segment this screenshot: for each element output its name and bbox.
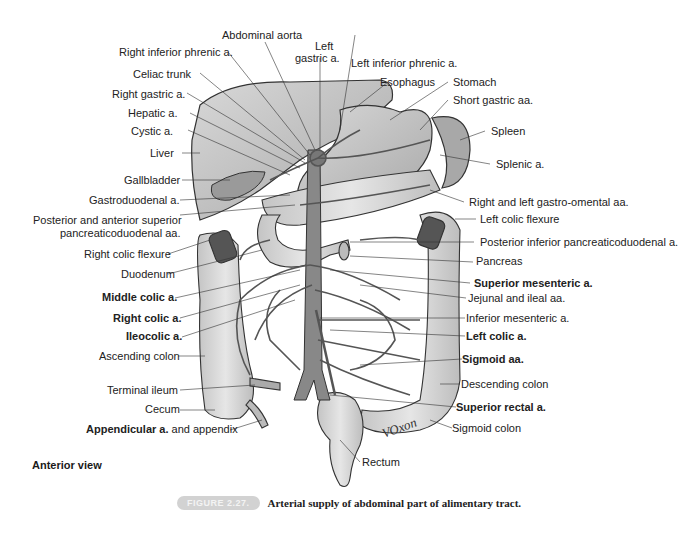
spleen (432, 117, 470, 188)
label-sigmoid-colon: Sigmoid colon (452, 422, 521, 435)
label-ascending-colon: Ascending colon (99, 350, 180, 363)
label-superior-mesenteric: Superior mesenteric a. (474, 277, 593, 290)
label-right-colic: Right colic a. (113, 312, 181, 325)
label-splenic: Splenic a. (496, 158, 544, 171)
label-superior-rectal: Superior rectal a. (456, 401, 546, 414)
label-duodenum: Duodenum (121, 268, 175, 281)
label-rectum: Rectum (362, 456, 400, 469)
label-celiac-trunk: Celiac trunk (133, 68, 191, 81)
label-post-ant-superior-1: Posterior and anterior superior (33, 214, 182, 227)
label-left-colic: Left colic a. (466, 330, 527, 343)
label-post-inf-pancreaticoduodenal: Posterior inferior pancreaticoduodenal a… (480, 236, 678, 249)
illustration: VOxon (0, 0, 698, 533)
label-terminal-ileum: Terminal ileum (107, 384, 178, 397)
label-spleen: Spleen (491, 125, 525, 138)
label-middle-colic: Middle colic a. (102, 291, 177, 304)
label-descending-colon: Descending colon (461, 378, 548, 391)
anatomy-figure: VOxon Abdominal aorta Right inferior phr… (0, 0, 698, 533)
label-gallbladder: Gallbladder (124, 174, 180, 187)
label-hepatic: Hepatic a. (128, 107, 178, 120)
label-abdominal-aorta: Abdominal aorta (222, 29, 302, 42)
rectum (318, 392, 364, 486)
label-cecum: Cecum (145, 403, 180, 416)
figure-number-badge: FIGURE 2.27. (177, 496, 260, 510)
caption-text: Arterial supply of abdominal part of ali… (268, 497, 522, 509)
view-label: Anterior view (32, 459, 102, 471)
label-right-colic-flexure: Right colic flexure (84, 248, 171, 261)
label-esophagus: Esophagus (380, 76, 435, 89)
label-short-gastric: Short gastric aa. (453, 94, 533, 107)
label-sigmoid-aa: Sigmoid aa. (462, 353, 524, 366)
label-left-gastric-2: gastric a. (295, 52, 340, 65)
descending-colon (360, 212, 460, 433)
label-appendix: and appendix (169, 423, 238, 435)
label-inferior-mesenteric: Inferior mesenteric a. (466, 312, 569, 325)
label-jejunal-ileal: Jejunal and ileal aa. (468, 292, 565, 305)
label-liver: Liver (150, 147, 174, 160)
label-stomach: Stomach (453, 76, 496, 89)
label-appendicular: Appendicular a. and appendix (86, 423, 238, 436)
figure-caption: FIGURE 2.27. Arterial supply of abdomina… (177, 496, 521, 510)
mesenteric-arcades (237, 238, 420, 396)
label-appendicular-bold: Appendicular a. (86, 423, 169, 435)
label-right-inferior-phrenic: Right inferior phrenic a. (119, 46, 233, 59)
label-gastro-omental: Right and left gastro-omental aa. (469, 196, 629, 209)
label-pancreas: Pancreas (476, 255, 522, 268)
label-cystic: Cystic a. (131, 125, 173, 138)
label-ileocolic: Ileocolic a. (126, 330, 182, 343)
label-gastroduodenal: Gastroduodenal a. (89, 194, 180, 207)
label-right-gastric: Right gastric a. (112, 88, 185, 101)
label-post-ant-superior-2: pancreaticoduodenal aa. (60, 227, 180, 240)
label-left-inferior-phrenic: Left inferior phrenic a. (351, 57, 457, 70)
label-left-colic-flexure: Left colic flexure (480, 213, 559, 226)
